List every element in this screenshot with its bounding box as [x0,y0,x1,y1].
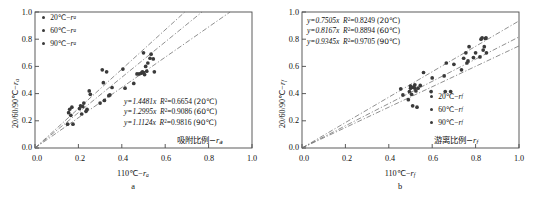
legend-label-unit: ℃ [446,119,455,127]
equation-20c-temp: 20℃ [196,97,214,106]
panel-a-xtick-3: 0.6 [155,155,177,163]
panel-b-ytick-4: 0.8 [273,36,299,44]
panel-b-series-note-dash: − [466,135,473,145]
panel-a-series-note-cn: 吸附比例 [177,135,209,145]
figure-container: 1.0 0.8 0.6 0.4 0.2 0.0 0.0 0.2 0.4 0.6 … [0,0,533,199]
panel-b-xtick-2: 0.4 [379,155,401,163]
legend-item-20c-ra[interactable]: 20℃−ra [42,11,76,24]
panel-a-xtick-5: 1.0 [241,155,263,163]
equation-60c: y=0.8167x R2=0.8894 (60℃) [307,26,400,36]
legend-label-temp: 60 [50,27,58,35]
legend-marker-icon [430,95,433,98]
legend-item-20c-rf[interactable]: 20℃−rf [430,90,463,103]
panel-a-equations: y=1.4481x R2=0.6654 (20℃) y=1.2995x R2=0… [124,97,217,128]
legend-marker-icon [430,108,433,111]
legend-label-sub: a [74,41,77,46]
panel-a-xtick-0: 0.0 [26,155,48,163]
panel-b-legend: 20℃−rf 60℃−rf 90℃−rf [430,90,463,129]
panel-b-y-axis-sub: f [281,80,287,82]
panel-b-x-axis-sub: f [414,172,416,178]
equation-20c: y=0.7505x R2=0.8249 (20℃) [307,16,400,26]
panel-a-xtick-2: 0.4 [112,155,134,163]
panel-a-x-axis-prefix: 110 [117,169,129,178]
legend-label-sub: f [462,120,463,125]
panel-a-y-axis-title: 20/60/90℃−ra [10,79,20,128]
legend-label-sub: f [462,94,463,99]
panel-b-xtick-4: 0.8 [465,155,487,163]
panel-a-ytick-5: 1.0 [6,9,32,17]
equation-20c-slope: 0.7505 [315,16,336,25]
legend-label-unit: ℃ [58,27,67,35]
panel-a-legend: 20℃−ra 60℃−ra 90℃−ra [42,11,76,50]
panel-a-series-note-dash: − [209,135,216,145]
panel-b-y-axis-dash: − [278,85,287,90]
legend-label-unit: ℃ [58,40,67,48]
panel-a-y-axis-prefix: 20/60/90 [11,99,20,128]
equation-60c-r2: 0.9086 [171,108,192,117]
equation-20c: y=1.4481x R2=0.6654 (20℃) [124,97,217,107]
equation-60c-temp: 60℃ [379,27,397,36]
equation-90c-slope: 0.9345 [315,37,336,46]
equation-60c-r2: 0.8894 [354,27,375,36]
panel-a-series-note: 吸附比例−ra [177,133,223,145]
equation-90c: y=0.9345x R2=0.9705 (90℃) [307,37,400,47]
panel-b-y-axis-title: 20/60/90℃−rf [277,80,287,128]
legend-label-temp: 20 [438,93,446,101]
panel-a-x-axis-degc: ℃ [129,168,138,178]
panel-b-ytick-0: 0.0 [273,144,299,152]
legend-marker-icon [430,121,433,124]
legend-item-60c-ra[interactable]: 60℃−ra [42,24,76,37]
legend-marker-icon [42,42,45,45]
panel-b-series-note: 游离比例−rf [434,133,478,145]
equation-90c-r2: 0.9816 [171,118,192,127]
panel-b-xtick-0: 0.0 [293,155,315,163]
legend-item-90c-ra[interactable]: 90℃−ra [42,37,76,50]
panel-a-series-note-sub: a [219,139,223,145]
equation-20c-slope: 1.4481 [132,97,153,106]
panel-b-ytick-3: 0.6 [273,63,299,71]
panel-b-ytick-5: 1.0 [273,9,299,17]
equation-90c: y=1.1124x R2=0.9816 (90℃) [124,118,217,128]
equation-90c-temp: 90℃ [196,118,214,127]
chart-panel-b: 1.0 0.8 0.6 0.4 0.2 0.0 0.0 0.2 0.4 0.6 … [267,0,533,199]
panel-b-x-axis-title: 110℃−rf [267,168,533,178]
equation-90c-slope: 1.1124 [132,118,152,127]
panel-a-xtick-1: 0.2 [69,155,91,163]
panel-a-ytick-0: 0.0 [6,144,32,152]
panel-a-ytick-4: 0.8 [6,36,32,44]
panel-b-series-note-cn: 游离比例 [434,135,466,145]
equation-90c-temp: 90℃ [379,37,397,46]
legend-label-sub: a [74,15,77,20]
equation-20c-temp: 20℃ [379,16,397,25]
equation-60c: y=1.2995x R2=0.9086 (60℃) [124,107,217,117]
panel-b-equations: y=0.7505x R2=0.8249 (20℃) y=0.8167x R2=0… [307,16,400,47]
equation-60c-temp: 60℃ [196,108,214,117]
panel-b-series-note-sub: f [476,139,478,145]
panel-a-y-axis-sub: a [14,79,20,82]
panel-a-y-axis-var: r [11,82,20,85]
legend-label-sub: f [462,107,463,112]
panel-a-y-axis-dash: − [11,85,20,90]
legend-marker-icon [42,16,45,19]
panel-a-y-axis-degc: ℃ [10,90,20,99]
equation-20c-r2: 0.8249 [354,16,375,25]
equation-60c-slope: 1.2995 [132,108,153,117]
legend-label-temp: 90 [438,119,446,127]
panel-b-y-axis-var: r [278,82,287,85]
legend-marker-icon [42,29,45,32]
panel-a-xtick-4: 0.8 [198,155,220,163]
panel-b-x-axis-degc: ℃ [397,168,406,178]
legend-item-90c-rf[interactable]: 90℃−rf [430,116,463,129]
panel-b-x-axis-prefix: 110 [385,169,397,178]
legend-label-temp: 90 [50,40,58,48]
panel-a-letter: a [0,182,266,191]
panel-a-ytick-3: 0.6 [6,63,32,71]
panel-b-y-axis-degc: ℃ [277,90,287,99]
legend-item-60c-rf[interactable]: 60℃−rf [430,103,463,116]
equation-90c-r2: 0.9705 [354,37,375,46]
panel-b-letter: b [267,182,533,191]
panel-b-xtick-1: 0.2 [336,155,358,163]
legend-label-unit: ℃ [58,14,67,22]
equation-60c-slope: 0.8167 [315,27,336,36]
panel-b-xtick-5: 1.0 [508,155,530,163]
